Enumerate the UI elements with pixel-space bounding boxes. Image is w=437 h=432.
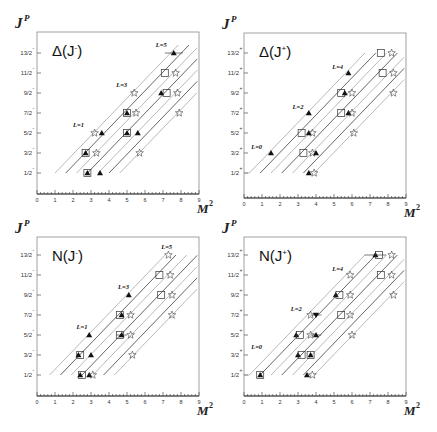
x-tick-label: 6 bbox=[143, 197, 146, 203]
orbital-label: L=1 bbox=[76, 323, 88, 330]
x-axis-label-sup: 2 bbox=[416, 203, 420, 212]
x-tick-label: 6 bbox=[350, 201, 353, 207]
y-tick-parity: - bbox=[33, 327, 35, 333]
y-axis-label: J bbox=[14, 15, 23, 31]
x-tick-label: 6 bbox=[143, 399, 146, 405]
triangle-marker bbox=[171, 50, 177, 55]
x-tick-label: 0 bbox=[35, 197, 38, 203]
y-tick-parity: + bbox=[240, 145, 243, 151]
y-tick-label: 1/2 bbox=[24, 170, 33, 176]
orbital-label: L=4 bbox=[331, 265, 344, 272]
star-marker bbox=[348, 89, 356, 96]
y-tick-label: 3/2 bbox=[24, 352, 33, 358]
trajectory-line bbox=[271, 255, 387, 375]
y-tick-label: 1/2 bbox=[231, 170, 240, 176]
y-axis-label-sup: P bbox=[231, 14, 237, 24]
y-tick-label: 1/2 bbox=[24, 372, 33, 378]
y-tick-parity: - bbox=[33, 145, 35, 151]
x-axis-label-sup: 2 bbox=[416, 401, 420, 410]
y-tick-label: 13/2 bbox=[227, 50, 239, 56]
panel-title: Δ(J-) bbox=[52, 42, 82, 59]
x-tick-label: 1 bbox=[53, 197, 56, 203]
y-axis-label: J bbox=[221, 16, 230, 32]
y-tick-parity: + bbox=[240, 65, 243, 71]
x-tick-label: 3 bbox=[296, 399, 299, 405]
orbital-label: L=0 bbox=[250, 143, 263, 150]
y-tick-label: 11/2 bbox=[228, 272, 240, 278]
star-marker bbox=[346, 291, 354, 298]
triangle-marker bbox=[304, 372, 310, 377]
panel-title: Δ(J+) bbox=[259, 43, 291, 60]
y-tick-parity: - bbox=[33, 85, 35, 91]
y-tick-label: 3/2 bbox=[231, 150, 240, 156]
y-tick-label: 11/2 bbox=[228, 70, 240, 76]
y-tick-label: 9/2 bbox=[231, 292, 240, 298]
orbital-label: L=3 bbox=[115, 81, 128, 88]
y-tick-parity: + bbox=[240, 367, 243, 373]
star-marker bbox=[350, 129, 358, 136]
star-marker bbox=[129, 351, 137, 358]
y-tick-label: 7/2 bbox=[231, 110, 240, 116]
orbital-label: L=4 bbox=[331, 63, 344, 70]
x-tick-label: 5 bbox=[332, 399, 335, 405]
x-tick-label: 8 bbox=[386, 399, 389, 405]
y-tick-parity: - bbox=[33, 267, 35, 273]
x-tick-label: 3 bbox=[89, 399, 92, 405]
x-tick-label: 8 bbox=[179, 399, 182, 405]
y-tick-parity: + bbox=[240, 287, 243, 293]
y-tick-parity: + bbox=[240, 347, 243, 353]
star-marker bbox=[348, 331, 356, 338]
y-axis-label-sup: P bbox=[24, 218, 30, 228]
y-tick-label: 5/2 bbox=[24, 332, 33, 338]
y-tick-parity: + bbox=[240, 327, 243, 333]
y-tick-parity: - bbox=[33, 125, 35, 131]
x-tick-label: 7 bbox=[368, 201, 371, 207]
y-tick-label: 5/2 bbox=[231, 130, 240, 136]
triangle-marker bbox=[88, 352, 94, 357]
triangle-marker bbox=[86, 332, 92, 337]
star-marker bbox=[165, 251, 173, 258]
star-marker bbox=[127, 331, 135, 338]
y-tick-parity: - bbox=[33, 367, 35, 373]
x-tick-label: 5 bbox=[332, 201, 335, 207]
triangle-marker bbox=[99, 130, 105, 135]
y-tick-parity: - bbox=[33, 247, 35, 253]
x-tick-label: 7 bbox=[161, 197, 164, 203]
panel-delta-minus: 0123456789M2JP1/2-3/2-5/2-7/2-9/2-11/2-1… bbox=[14, 13, 213, 216]
orbital-label: L=0 bbox=[250, 343, 263, 350]
square-marker bbox=[338, 312, 345, 319]
triangle-marker bbox=[306, 130, 312, 135]
x-tick-label: 0 bbox=[35, 399, 38, 405]
x-tick-label: 0 bbox=[242, 201, 245, 207]
triangle-marker bbox=[306, 170, 312, 175]
star-marker bbox=[390, 291, 398, 298]
triangle-marker bbox=[135, 130, 141, 135]
star-marker bbox=[346, 271, 354, 278]
star-marker bbox=[175, 109, 183, 116]
triangle-marker bbox=[119, 332, 125, 337]
x-tick-label: 5 bbox=[125, 399, 128, 405]
y-tick-label: 11/2 bbox=[21, 70, 33, 76]
square-marker bbox=[338, 110, 345, 117]
y-tick-label: 1/2 bbox=[231, 372, 240, 378]
y-tick-label: 11/2 bbox=[21, 272, 33, 278]
y-tick-label: 9/2 bbox=[231, 90, 240, 96]
x-tick-label: 2 bbox=[278, 201, 281, 207]
y-tick-parity: - bbox=[33, 105, 35, 111]
panel-delta-plus: 0123456789M2JP1/2+3/2+5/2+7/2+9/2+11/2+1… bbox=[221, 14, 420, 220]
x-tick-label: 4 bbox=[314, 201, 317, 207]
orbital-label: L=3 bbox=[117, 283, 130, 290]
x-tick-label: 5 bbox=[125, 197, 128, 203]
triangle-marker bbox=[342, 90, 348, 95]
trajectory-line bbox=[303, 68, 404, 173]
x-tick-label: 3 bbox=[296, 201, 299, 207]
panel-title: N(J-) bbox=[52, 247, 83, 264]
y-tick-label: 9/2 bbox=[24, 292, 33, 298]
x-tick-label: 2 bbox=[71, 197, 74, 203]
y-tick-parity: + bbox=[240, 165, 243, 171]
star-marker bbox=[174, 89, 182, 96]
y-tick-parity: - bbox=[33, 65, 35, 71]
x-axis-label: M bbox=[403, 403, 416, 418]
orbital-label: L=2 bbox=[292, 103, 305, 110]
y-tick-label: 7/2 bbox=[231, 312, 240, 318]
